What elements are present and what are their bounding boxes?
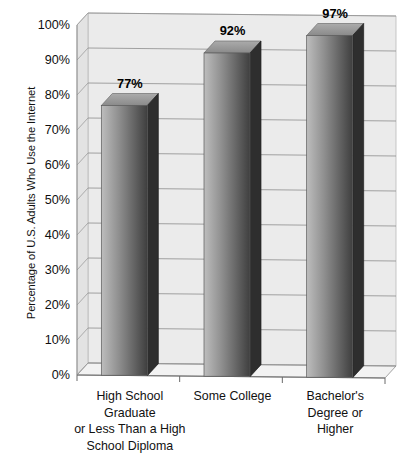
x-axis-category-label-line: High School: [74, 388, 185, 405]
x-axis-category-label-line: Bachelor's: [306, 388, 363, 405]
bar-group: [204, 41, 261, 377]
bar-front-face: [101, 106, 147, 376]
bar-side-face: [147, 94, 158, 376]
x-axis-category-label-line: School Diploma: [74, 438, 185, 455]
bar-group: [307, 24, 364, 378]
bar-value-label: 97%: [322, 6, 348, 21]
x-axis-category-label-line: Higher: [306, 421, 363, 438]
x-axis-category-label-line: Graduate: [74, 405, 185, 422]
x-axis-category-label-line: or Less Than a High: [74, 421, 185, 438]
bar-side-face: [250, 41, 261, 377]
bar-group: [101, 94, 158, 376]
bar-front-face: [204, 53, 250, 376]
x-axis-category-label: Bachelor'sDegree orHigher: [306, 388, 363, 438]
bar-chart: Percentage of U.S. Adults Who Use the In…: [0, 0, 408, 459]
bar-front-face: [307, 36, 353, 378]
x-axis-category-label-line: Some College: [194, 388, 272, 405]
x-axis-category-label: High SchoolGraduateor Less Than a HighSc…: [74, 388, 185, 454]
bar-value-label: 92%: [220, 23, 246, 38]
bar-side-face: [353, 24, 364, 378]
bar-value-label: 77%: [117, 76, 143, 91]
x-axis-category-label-line: Degree or: [306, 405, 363, 422]
x-axis-category-label: Some College: [194, 388, 272, 405]
